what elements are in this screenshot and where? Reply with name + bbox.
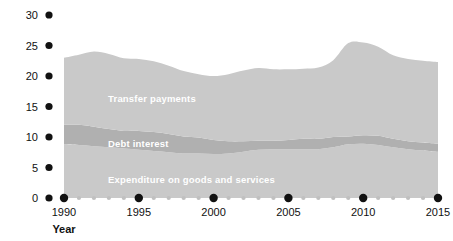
x-tick-dot-minor <box>107 196 111 200</box>
y-tick-label: 25 <box>14 40 38 52</box>
band-label-transfer-payments: Transfer payments <box>108 93 196 104</box>
x-tick-dot-minor <box>256 196 260 200</box>
y-tick-dot <box>45 103 52 110</box>
x-tick-dot-minor <box>391 196 395 200</box>
x-tick-label: 2010 <box>343 206 383 218</box>
band-label-expenditure-on-goods-and-services: Expenditure on goods and services <box>108 174 275 185</box>
x-tick-dot-minor <box>197 196 201 200</box>
x-axis-title: Year <box>34 223 94 235</box>
y-tick-label: 15 <box>14 101 38 113</box>
x-tick-dot-minor <box>346 196 350 200</box>
y-tick-label: 10 <box>14 131 38 143</box>
area-chart: Outlays (percentage of GDP) 051015202530… <box>0 0 453 241</box>
x-tick-dot-major <box>135 194 143 202</box>
x-tick-label: 1995 <box>119 206 159 218</box>
x-tick-label: 2015 <box>418 206 453 218</box>
y-tick-dot <box>45 164 52 171</box>
plot-area <box>0 0 453 241</box>
x-tick-label: 2000 <box>194 206 234 218</box>
y-tick-label: 30 <box>14 9 38 21</box>
x-tick-dot-major <box>60 194 68 202</box>
band-label-debt-interest: Debt interest <box>108 138 169 149</box>
y-tick-dot <box>45 11 52 18</box>
x-tick-dot-minor <box>331 196 335 200</box>
x-tick-dot-major <box>209 194 217 202</box>
x-tick-dot-minor <box>421 196 425 200</box>
x-tick-dot-minor <box>226 196 230 200</box>
area-band-expenditure-on-goods-and-services <box>64 144 438 198</box>
x-tick-dot-minor <box>271 196 275 200</box>
x-tick-dot-minor <box>316 196 320 200</box>
x-tick-dot-minor <box>376 196 380 200</box>
x-tick-dot-minor <box>77 196 81 200</box>
y-tick-label: 0 <box>14 192 38 204</box>
x-tick-dot-minor <box>241 196 245 200</box>
y-tick-dot <box>45 133 52 140</box>
y-tick-label: 20 <box>14 70 38 82</box>
x-tick-dot-minor <box>122 196 126 200</box>
x-tick-dot-major <box>284 194 292 202</box>
x-tick-dot-major <box>434 194 442 202</box>
x-tick-dot-minor <box>182 196 186 200</box>
x-tick-dot-minor <box>301 196 305 200</box>
x-tick-dot-minor <box>167 196 171 200</box>
x-tick-dot-minor <box>406 196 410 200</box>
x-tick-dot-minor <box>152 196 156 200</box>
y-tick-dot <box>45 194 52 201</box>
x-tick-label: 2005 <box>268 206 308 218</box>
x-tick-label: 1990 <box>44 206 84 218</box>
y-tick-dot <box>45 72 52 79</box>
y-tick-dot <box>45 42 52 49</box>
x-tick-dot-major <box>359 194 367 202</box>
x-tick-dot-minor <box>92 196 96 200</box>
y-tick-label: 5 <box>14 162 38 174</box>
